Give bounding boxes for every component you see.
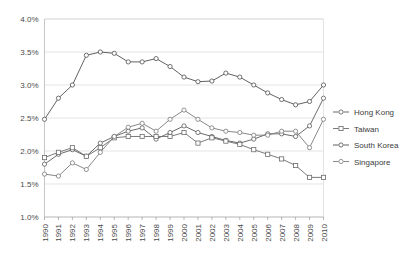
data-point-marker [42, 117, 46, 121]
data-point-marker [168, 134, 172, 138]
data-point-marker [196, 117, 200, 121]
legend-label: Taiwan [354, 125, 379, 134]
x-axis-tick-label: 1998 [152, 223, 161, 241]
data-point-marker [280, 97, 284, 101]
x-axis-tick-label: 2007 [278, 223, 287, 241]
data-point-marker [196, 80, 200, 84]
data-point-marker [280, 157, 284, 161]
data-point-marker [126, 60, 130, 64]
x-axis-tick-label: 2010 [320, 223, 329, 241]
data-point-marker [321, 117, 325, 121]
data-point-marker [266, 91, 270, 95]
data-point-marker [126, 125, 130, 129]
y-axis-tick-label: 1.0% [20, 213, 38, 222]
data-point-marker [98, 50, 102, 54]
data-point-marker [84, 154, 88, 158]
data-point-marker [210, 126, 214, 130]
data-point-marker [307, 124, 311, 128]
data-point-marker [321, 175, 325, 179]
x-axis-tick-label: 2002 [208, 223, 217, 241]
chart-canvas: 1.0%1.5%2.0%2.5%3.0%3.5%4.0% 19901991199… [0, 0, 408, 269]
data-point-marker [56, 96, 60, 100]
x-axis-tick-label: 1991 [54, 223, 63, 241]
data-point-marker [112, 134, 116, 138]
y-axis-tick-label: 1.5% [20, 180, 38, 189]
legend-label: South Korea [354, 141, 399, 150]
data-point-marker [252, 83, 256, 87]
data-point-marker [98, 141, 102, 145]
x-axis-tick-label: 2006 [264, 223, 273, 241]
data-point-marker [321, 83, 325, 87]
data-point-marker [182, 124, 186, 128]
x-axis-tick-label: 2005 [250, 223, 259, 241]
data-point-marker [307, 146, 311, 150]
data-point-marker [339, 110, 343, 114]
data-point-marker [42, 156, 46, 160]
data-point-marker [294, 134, 298, 138]
data-point-marker [224, 71, 228, 75]
x-axis-tick-label: 2009 [306, 223, 315, 241]
data-point-marker [196, 141, 200, 145]
data-point-marker [224, 139, 228, 143]
data-point-marker [238, 130, 242, 134]
data-point-marker [238, 75, 242, 79]
data-point-marker [154, 134, 158, 138]
data-point-marker [266, 152, 270, 156]
data-point-marker [196, 130, 200, 134]
y-axis-tick-label: 4.0% [20, 15, 38, 24]
data-point-marker [252, 133, 256, 137]
y-axis-tick-label: 2.0% [20, 147, 38, 156]
x-axis-tick-label: 1999 [166, 223, 175, 241]
data-point-marker [140, 121, 144, 125]
x-axis-tick-label: 1990 [41, 223, 50, 241]
data-point-marker [70, 161, 74, 165]
data-point-marker [224, 129, 228, 133]
data-point-marker [42, 162, 46, 166]
data-point-marker [280, 129, 284, 133]
x-axis-tick-label: 1993 [82, 223, 91, 241]
data-point-marker [294, 103, 298, 107]
data-point-marker [307, 99, 311, 103]
data-point-marker [42, 172, 46, 176]
data-point-marker [210, 79, 214, 83]
data-point-marker [307, 175, 311, 179]
x-axis-tick-label: 2001 [194, 223, 203, 241]
y-axis-tick-label: 2.5% [20, 114, 38, 123]
x-axis-tick-label: 1994 [96, 223, 105, 241]
data-point-marker [70, 83, 74, 87]
data-point-marker [168, 64, 172, 68]
data-point-marker [98, 150, 102, 154]
data-point-marker [182, 130, 186, 134]
y-axis-tick-label: 3.5% [20, 48, 38, 57]
data-point-marker [294, 163, 298, 167]
x-axis-tick-label: 1997 [138, 223, 147, 241]
x-axis-tick-label: 2008 [292, 223, 301, 241]
data-point-marker [140, 126, 144, 130]
x-axis-tick-label: 1992 [68, 223, 77, 241]
data-point-marker [339, 143, 343, 147]
data-point-marker [140, 60, 144, 64]
data-point-marker [252, 148, 256, 152]
data-point-marker [84, 53, 88, 57]
data-point-marker [154, 57, 158, 61]
data-point-marker [126, 134, 130, 138]
x-axis-tick-label: 2003 [222, 223, 231, 241]
x-axis-tick-label: 2004 [236, 223, 245, 241]
data-point-marker [182, 75, 186, 79]
x-axis-ticks [45, 217, 324, 220]
data-point-marker [56, 150, 60, 154]
x-axis-tick-label: 1995 [110, 223, 119, 241]
data-point-marker [70, 146, 74, 150]
data-point-marker [154, 129, 158, 133]
x-axis-labels: 1990199119921993199419951996199719981999… [41, 223, 329, 241]
data-point-marker [294, 129, 298, 133]
line-chart: 1.0%1.5%2.0%2.5%3.0%3.5%4.0% 19901991199… [0, 0, 408, 269]
data-point-marker [339, 159, 343, 163]
data-point-marker [321, 96, 325, 100]
legend-label: Hong Kong [354, 108, 394, 117]
data-point-marker [266, 133, 270, 137]
data-point-marker [112, 51, 116, 55]
legend-label: Singapore [354, 158, 391, 167]
data-point-marker [168, 117, 172, 121]
data-point-marker [140, 134, 144, 138]
